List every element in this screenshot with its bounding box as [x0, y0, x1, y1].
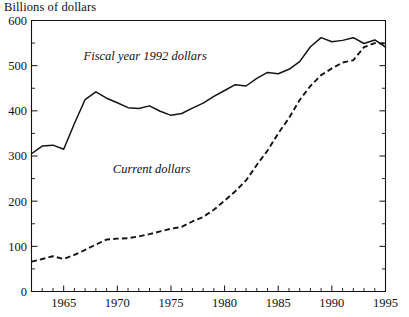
y-tick-label-500: 500 — [8, 59, 27, 73]
x-tick-label-1995: 1995 — [373, 296, 398, 310]
y-tick-label-300: 300 — [8, 149, 27, 163]
y-tick-label-600: 600 — [8, 14, 27, 28]
y-tick-label-0: 0 — [21, 285, 27, 299]
x-tick-label-1980: 1980 — [212, 296, 237, 310]
series-line-current-dollars — [32, 43, 386, 262]
x-tick-label-1975: 1975 — [158, 296, 183, 310]
y-tick-label-200: 200 — [8, 195, 27, 209]
series-label-current-dollars: Current dollars — [113, 162, 191, 176]
x-tick-label-1970: 1970 — [105, 296, 130, 310]
y-tick-label-100: 100 — [8, 240, 27, 254]
chart-container: Billions of dollars 0100200300400500600 … — [0, 0, 409, 317]
x-tick-label-1990: 1990 — [319, 296, 344, 310]
series-annotations: Fiscal year 1992 dollarsCurrent dollars — [83, 49, 207, 176]
x-tick-label-1965: 1965 — [51, 296, 76, 310]
x-tick-label-1985: 1985 — [266, 296, 291, 310]
y-tick-label-400: 400 — [8, 104, 27, 118]
data-series-group — [32, 38, 386, 262]
series-label-fiscal-1992-dollars: Fiscal year 1992 dollars — [83, 49, 207, 63]
chart-plot: 0100200300400500600 19651970197519801985… — [0, 0, 409, 317]
x-axis-ticks: 1965197019751980198519901995 — [32, 286, 399, 310]
